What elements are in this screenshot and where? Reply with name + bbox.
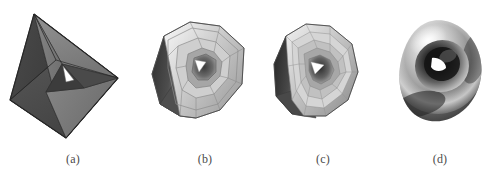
shape-stage-c xyxy=(264,0,382,148)
figure-panel-d: (d) xyxy=(382,0,498,183)
figure-panel-c: (c) xyxy=(264,0,382,183)
panel-caption-a: (a) xyxy=(0,152,146,167)
subdivided-mesh-level-1-icon xyxy=(146,0,264,148)
shape-stage-b xyxy=(146,0,264,148)
panel-caption-d: (d) xyxy=(382,152,498,167)
figure-panel-a: (a) xyxy=(0,0,146,183)
shape-stage-d xyxy=(382,0,498,148)
figure-panel-b: (b) xyxy=(146,0,264,183)
figure-container: (a) xyxy=(0,0,498,183)
subdivided-mesh-level-2-icon xyxy=(264,0,382,148)
shape-stage-a xyxy=(0,0,146,148)
panel-caption-c: (c) xyxy=(264,152,382,167)
panel-caption-b: (b) xyxy=(146,152,264,167)
control-mesh-tetrahedron-icon xyxy=(0,0,146,148)
limit-smooth-surface-icon xyxy=(382,0,498,148)
